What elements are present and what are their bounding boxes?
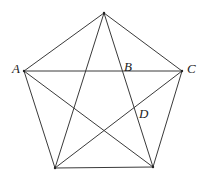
side-C-bottom-right <box>153 71 182 167</box>
diagonal-top-bottom-right <box>104 13 153 167</box>
pentagon-diagram: A B C D <box>0 0 203 178</box>
vertex-bottom-right <box>152 166 154 168</box>
vertex-C <box>181 70 183 72</box>
label-C: C <box>187 61 196 76</box>
label-A: A <box>11 61 20 76</box>
diagonal-C-bottom-left <box>55 71 182 168</box>
diagonal-top-bottom-left <box>55 13 104 168</box>
vertex-A <box>23 70 25 72</box>
vertex-bottom-left <box>54 167 56 169</box>
label-B: B <box>124 59 132 74</box>
side-A-bottom-left <box>24 71 55 168</box>
diagonal-A-bottom-right <box>24 71 153 167</box>
side-top-C <box>104 13 182 71</box>
side-bottom <box>55 167 153 168</box>
label-D: D <box>138 106 149 121</box>
side-top-A <box>24 13 104 71</box>
vertex-top <box>103 12 105 14</box>
